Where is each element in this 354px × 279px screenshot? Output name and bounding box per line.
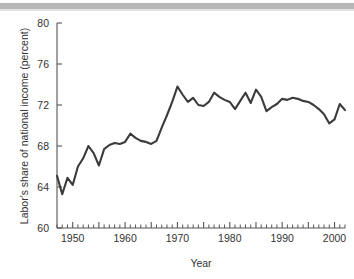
y-tick-label-72: 72 <box>37 99 49 111</box>
y-tick-label-80: 80 <box>37 17 49 29</box>
x-axis-ticks <box>57 222 345 228</box>
x-axis-title: Year <box>190 257 212 269</box>
x-tick-label-1960: 1960 <box>113 232 137 244</box>
x-tick-label-1970: 1970 <box>166 232 190 244</box>
x-tick-label-1980: 1980 <box>218 232 242 244</box>
x-axis-tick-labels: 195019601970198019902000 <box>61 232 346 244</box>
y-tick-label-60: 60 <box>37 222 49 234</box>
y-axis-tick-labels: 606468727680 <box>37 17 49 234</box>
x-tick-label-2000: 2000 <box>323 232 347 244</box>
y-axis-ticks <box>57 23 62 228</box>
y-axis-title: Labor's share of national income (percen… <box>18 28 30 224</box>
y-tick-label-64: 64 <box>37 181 49 193</box>
x-tick-label-1950: 1950 <box>61 232 85 244</box>
y-tick-label-68: 68 <box>37 140 49 152</box>
y-tick-label-76: 76 <box>37 58 49 70</box>
line-chart: 606468727680 195019601970198019902000 Ye… <box>0 0 354 279</box>
x-tick-label-1990: 1990 <box>270 232 294 244</box>
data-series-line <box>57 87 345 195</box>
figure-container: 606468727680 195019601970198019902000 Ye… <box>0 0 354 279</box>
chart-axes <box>57 23 345 228</box>
